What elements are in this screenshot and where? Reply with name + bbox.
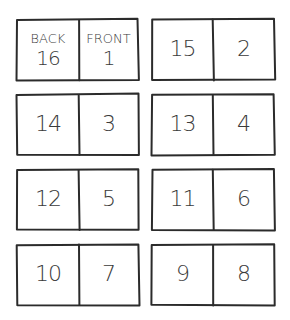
page-number-left: 12 [35,186,61,211]
page-number-left: 13 [170,111,196,136]
page-number-right: 6 [237,186,250,211]
sheet-4: 134 [152,94,275,155]
sheet-3: 143 [17,94,139,156]
page-number-left: 16 [36,46,59,70]
front-label: FRONT [86,31,130,46]
sheets-layer: BACK16FRONT115214313412511610798 [17,19,276,306]
page-number-left: 14 [35,111,61,136]
fold-line [79,95,80,154]
page-number-right: 8 [237,261,250,286]
sheet-5: 125 [17,169,139,230]
page-number-left: 11 [170,186,196,211]
sheet-2: 152 [152,19,275,81]
sheet-outline [17,19,139,81]
page-number-right: 2 [237,36,250,61]
fold-line [213,170,214,230]
fold-line [79,170,80,230]
back-label: BACK [31,31,66,46]
fold-line [213,95,214,155]
sheet-8: 98 [151,244,274,305]
page-number-right: 3 [102,111,115,136]
sheet-6: 116 [152,169,275,230]
page-number-left: 9 [176,261,189,286]
page-number-right: 7 [102,261,115,286]
page-number-left: 15 [170,36,196,61]
sheet-1: BACK16FRONT1 [17,19,139,81]
imposition-diagram: BACK16FRONT115214313412511610798 [0,0,290,320]
page-number-left: 10 [35,261,61,286]
sheet-7: 107 [17,245,140,306]
page-number-right: 1 [103,46,115,70]
page-number-right: 4 [237,111,250,136]
page-number-right: 5 [102,186,115,211]
fold-line [213,20,214,81]
